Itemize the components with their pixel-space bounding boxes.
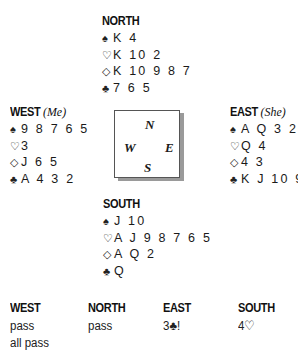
compass-box: N W E S [114,110,180,178]
north-diamonds: ◇ K 10 9 8 7 [102,63,192,80]
diamond-icon: ◇ [10,154,21,171]
north-label: NORTH [102,13,139,30]
compass-east: E [165,141,174,154]
west-diamonds: ◇ J 6 5 [10,154,89,171]
west-hearts: ♡ 3 [10,138,89,155]
heart-icon: ♡ [10,138,21,155]
spade-icon: ♠ [102,30,113,47]
heart-icon: ♡ [102,47,113,64]
west-label-text: WEST [10,105,40,119]
heart-icon: ♡ [230,138,241,155]
east-note: (She) [261,104,286,119]
auction-bid: 4♡ [238,318,276,336]
auction-table: WEST pass all pass NORTH pass EAST 3♣! S… [0,300,298,359]
south-clubs-cards: Q [114,263,126,280]
compass-north: N [145,118,154,131]
auction-header-west: WEST [10,300,47,318]
east-diamonds-cards: 4 3 [241,154,265,171]
spade-icon: ♠ [10,121,21,138]
auction-bid: all pass [10,335,49,353]
east-label: EAST(She) [230,104,286,121]
auction-column-north: NORTH pass [88,300,130,335]
club-icon: ♣ [102,80,113,97]
north-clubs: ♣ 7 6 5 [102,80,192,97]
west-clubs: ♣ A 4 3 2 [10,171,89,188]
heart-icon: ♡ [103,230,114,247]
west-note: (Me) [43,104,66,119]
south-hearts: ♡ A J 9 8 7 6 5 [103,230,212,247]
compass-south: S [144,161,151,174]
south-hearts-cards: A J 9 8 7 6 5 [114,230,212,247]
south-diamonds-cards: A Q 2 [114,246,156,263]
south-clubs: ♣ Q [103,263,212,280]
north-diamonds-cards: K 10 9 8 7 [113,63,192,80]
east-clubs: ♣ K J 10 9 8 [230,171,298,188]
auction-bid: pass [88,318,127,336]
north-hand: NORTH ♠ K 4 ♡ K 10 2 ◇ K 10 9 8 7 ♣ 7 6 … [102,13,192,97]
auction-column-west: WEST pass all pass [10,300,52,353]
auction-bid: pass [10,318,49,336]
club-icon: ♣ [10,171,21,188]
north-hearts-cards: K 10 2 [113,47,162,64]
club-icon: ♣ [230,171,241,188]
compass-west: W [124,141,136,154]
east-hearts: ♡ Q 4 [230,138,298,155]
west-diamonds-cards: J 6 5 [21,154,59,171]
east-label-text: EAST [230,105,258,119]
north-spades: ♠ K 4 [102,30,192,47]
spade-icon: ♠ [103,213,114,230]
south-hand: SOUTH ♠ J 10 ♡ A J 9 8 7 6 5 ◇ A Q 2 ♣ Q [103,196,212,280]
auction-header-north: NORTH [88,300,125,318]
east-spades: ♠ A Q 3 2 [230,121,298,138]
diamond-icon: ◇ [230,154,241,171]
east-hearts-cards: Q 4 [241,138,268,155]
east-diamonds: ◇ 4 3 [230,154,298,171]
west-label: WEST(Me) [10,104,66,121]
spade-icon: ♠ [230,121,241,138]
west-hand: WEST(Me) ♠ 9 8 7 6 5 ♡ 3 ◇ J 6 5 ♣ A 4 3… [10,104,89,188]
south-spades: ♠ J 10 [103,213,212,230]
south-spades-cards: J 10 [114,213,146,230]
east-hand: EAST(She) ♠ A Q 3 2 ♡ Q 4 ◇ 4 3 ♣ K J 10… [230,104,298,188]
club-icon: ♣ [103,263,114,280]
auction-header-east: EAST [163,300,191,318]
south-label: SOUTH [103,196,140,213]
west-hearts-cards: 3 [21,138,30,155]
diamond-icon: ◇ [103,246,114,263]
diamond-icon: ◇ [102,63,113,80]
south-diamonds: ◇ A Q 2 [103,246,212,263]
west-spades-cards: 9 8 7 6 5 [21,121,89,138]
west-spades: ♠ 9 8 7 6 5 [10,121,89,138]
north-spades-cards: K 4 [113,30,138,47]
auction-column-east: EAST 3♣! [163,300,195,335]
north-clubs-cards: 7 6 5 [113,80,152,97]
auction-header-south: SOUTH [238,300,275,318]
west-clubs-cards: A 4 3 2 [21,171,75,188]
east-spades-cards: A Q 3 2 [241,121,298,138]
east-clubs-cards: K J 10 9 8 [241,171,298,188]
auction-bid: 3♣! [163,318,192,336]
north-hearts: ♡ K 10 2 [102,47,192,64]
auction-column-south: SOUTH 4♡ [238,300,280,335]
